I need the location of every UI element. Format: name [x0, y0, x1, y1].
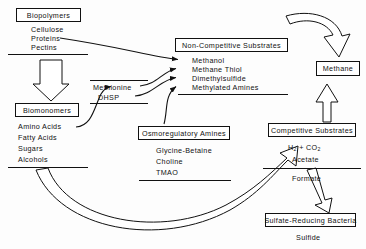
node-competitive-substrates[interactable]: Competitive Substrates: [268, 123, 356, 137]
node-biopolymers-label: Biopolymers: [27, 11, 70, 20]
competitive-underline: [263, 168, 361, 169]
biopolymers-item-proteins: Proteins: [31, 34, 60, 43]
node-methane-label: Methane: [323, 64, 353, 73]
diagram-canvas: Biopolymers Cellulose Proteins Pectins B…: [0, 0, 366, 249]
competitive-item-h2-co2: H2 + CO2: [288, 143, 321, 152]
arrow-noncompetitive-to-methane: [286, 13, 350, 57]
competitive-item-acetate: Acetate: [292, 155, 319, 164]
node-biopolymers[interactable]: Biopolymers: [16, 8, 81, 22]
node-non-competitive-label: Non-Competitive Substrates: [182, 41, 281, 50]
osmoregulatory-item-choline: Choline: [156, 157, 183, 166]
h2-co2-part-co: + CO: [297, 143, 318, 152]
non-competitive-item-methylated-amines: Methylated Amines: [192, 83, 259, 92]
arrow-biopolymers-to-biomonomers: [33, 60, 69, 101]
biomonomers-item-fatty-acids: Fatty Acids: [18, 133, 57, 142]
osmoregulatory-item-tmao: TMAO: [156, 168, 178, 177]
biomonomers-item-alcohols: Alcohols: [18, 155, 48, 164]
label-formate: Formate: [292, 174, 321, 183]
node-sulfate-reducing-bacteria[interactable]: Sulfate-Reducing Bacteria: [265, 213, 356, 227]
biopolymers-item-cellulose: Cellulose: [31, 25, 64, 34]
methyl-donors-underline: [90, 103, 148, 104]
methyl-donors-topline: [90, 80, 148, 81]
methyl-donor-methionine: Methionine: [93, 83, 132, 92]
non-competitive-item-dimethylsulfide: Dimethylsulfide: [192, 74, 246, 83]
biomonomers-underline: [8, 167, 88, 168]
node-osmoregulatory-label: Osmoregulatory Amines: [142, 129, 226, 138]
non-competitive-underline: [178, 94, 288, 95]
biopolymers-underline: [8, 54, 88, 55]
curve-osmoregulatory-to-methylated-amines: [164, 87, 176, 125]
biomonomers-item-amino-acids: Amino Acids: [18, 122, 61, 131]
h2-co2-sub-2: 2: [318, 146, 321, 152]
node-methane[interactable]: Methane: [316, 61, 360, 76]
curve-methionine-to-methane-thiol: [140, 69, 176, 87]
node-biomonomers-label: Biomonomers: [23, 106, 71, 115]
node-competitive-label: Competitive Substrates: [271, 126, 353, 135]
non-competitive-item-methanol: Methanol: [192, 56, 224, 65]
arrow-competitive-to-methane: [316, 84, 338, 122]
non-competitive-item-methane-thiol: Methane Thiol: [192, 65, 242, 74]
node-srb-label: Sulfate-Reducing Bacteria: [264, 216, 356, 225]
curve-pectins-to-methanol: [60, 38, 178, 60]
biomonomers-item-sugars: Sugars: [18, 144, 43, 153]
osmoregulatory-item-glycine-betaine: Glycine-Betaine: [156, 146, 212, 155]
label-sulfide: Sulfide: [296, 233, 320, 242]
node-non-competitive-substrates[interactable]: Non-Competitive Substrates: [175, 38, 288, 52]
methyl-donor-dhsp: DHSP: [98, 93, 119, 102]
biopolymers-item-pectins: Pectins: [31, 43, 57, 52]
node-biomonomers[interactable]: Biomonomers: [15, 103, 79, 117]
osmoregulatory-underline: [139, 180, 231, 181]
node-osmoregulatory-amines[interactable]: Osmoregulatory Amines: [138, 126, 230, 140]
